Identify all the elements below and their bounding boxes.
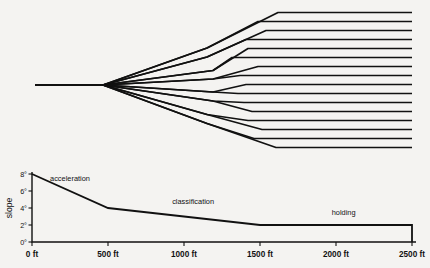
y-axis-title-text: slope [4,198,14,219]
x-tick-label: 500 ft [97,250,119,259]
yard-track-8 [103,76,412,86]
x-tick-label: 0 ft [26,250,39,259]
y-tick-labels: 0°2°4°6°8° [20,170,27,247]
yard-track-6 [103,58,412,86]
y-tick-label: 0° [20,238,27,247]
figure-root: 0°2°4°6°8° 0 ft500 ft1000 ft1500 ft2000 … [0,0,430,268]
y-tick-label: 6° [20,187,27,196]
x-tick-label: 2000 ft [323,250,349,259]
x-tick-label: 1000 ft [171,250,197,259]
classification-yard-diagram [0,0,430,160]
x-tick-label: 1500 ft [247,250,273,259]
zone-labels: accelerationclassificationholding [50,174,355,217]
y-tick-label: 2° [20,221,27,230]
zone-label-acceleration: acceleration [50,174,90,183]
y-tick-label: 4° [20,204,27,213]
zone-label-classification: classification [172,197,214,206]
zone-label-holding: holding [332,208,356,217]
x-tick-label: 2500 ft [399,250,425,259]
y-tick-label: 8° [20,170,27,179]
x-tick-labels: 0 ft500 ft1000 ft1500 ft2000 ft2500 ft [26,250,425,259]
classification-tracks [103,13,412,148]
y-axis-title: slope [4,198,14,219]
grade-profile-chart: 0°2°4°6°8° 0 ft500 ft1000 ft1500 ft2000 … [0,160,430,268]
